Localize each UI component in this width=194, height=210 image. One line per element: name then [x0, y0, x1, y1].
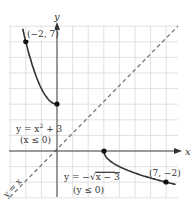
- x-axis-arrow-icon: [174, 148, 182, 154]
- point-0-3: [54, 101, 59, 106]
- y-axis-label: y: [53, 11, 60, 22]
- identity-line-label: y = x: [0, 176, 23, 200]
- point-label-neg2-7: (−2, 7): [27, 29, 59, 39]
- parabola-domain: (x ≤ 0): [20, 135, 51, 145]
- sqrt-equation: y = −√x − 3: [63, 172, 120, 182]
- graph-figure: x y (−2, 7) (7, −2) y = x2 + 3 (x ≤ 0) y…: [0, 0, 194, 210]
- sqrt-domain: (y ≤ 0): [73, 185, 104, 195]
- x-axis-label: x: [185, 146, 191, 157]
- point-7-neg2: [163, 179, 168, 184]
- point-3-0: [101, 148, 106, 153]
- point-label-7-neg2: (7, −2): [149, 168, 181, 178]
- parabola-equation: y = x2 + 3: [15, 122, 63, 134]
- graph-canvas: x y (−2, 7) (7, −2) y = x2 + 3 (x ≤ 0) y…: [0, 0, 194, 210]
